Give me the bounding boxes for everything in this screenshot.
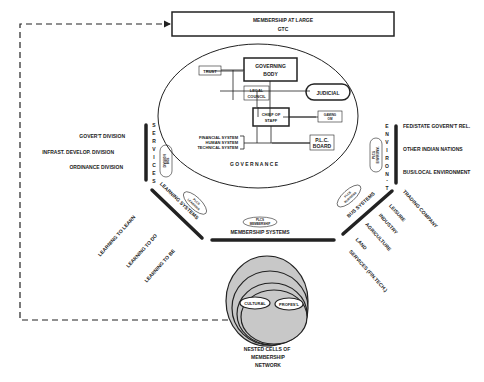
svg-text:BODY: BODY xyxy=(263,71,278,77)
svg-text:NESTED CELLS OF: NESTED CELLS OF xyxy=(244,346,290,352)
svg-text:INFRAST. DEVELOP. DIVISION: INFRAST. DEVELOP. DIVISION xyxy=(42,149,114,155)
svg-text:V: V xyxy=(152,146,156,152)
svg-text:-: - xyxy=(386,177,388,183)
services-vertical-label: S E R V I C E S xyxy=(152,122,156,184)
svg-text:E: E xyxy=(152,170,156,176)
svg-text:OTHER INDIAN NATIONS: OTHER INDIAN NATIONS xyxy=(403,146,463,152)
svg-text:CULTURAL: CULTURAL xyxy=(244,301,266,306)
trust-box: TRUST xyxy=(199,66,221,75)
gaming-box: GAMING OM xyxy=(318,111,342,122)
governance-systems-list: FINANCIAL SYSTEM HUMAN SYSTEM TECHNICAL … xyxy=(197,135,238,150)
judicial-box: JUDICIAL xyxy=(306,84,350,100)
svg-text:ORDINANCE DIVISION: ORDINANCE DIVISION xyxy=(69,164,123,170)
svg-text:R: R xyxy=(152,138,156,144)
svg-text:V: V xyxy=(385,139,389,145)
svg-text:S: S xyxy=(152,122,156,128)
svg-text:N: N xyxy=(385,131,389,137)
svg-text:MEMBERSHIP: MEMBERSHIP xyxy=(250,222,270,226)
svg-text:R: R xyxy=(385,155,389,161)
svg-text:TRUST: TRUST xyxy=(203,69,217,74)
svg-text:S: S xyxy=(152,178,156,184)
environment-items: FED/STATE GOVERN'T REL. OTHER INDIAN NAT… xyxy=(403,123,471,175)
membership-at-large-subtitle: GTC xyxy=(278,26,289,32)
environment-ellipse: PLCS ENVIRONM. xyxy=(370,138,382,172)
svg-text:TECHNICAL SYSTEM: TECHNICAL SYSTEM xyxy=(197,145,238,150)
membership-ellipse: PLCS MEMBERSHIP xyxy=(243,217,277,227)
governance-label: G O V E R N A N C E xyxy=(230,161,279,167)
svg-text:CHIEF OF: CHIEF OF xyxy=(262,112,281,117)
svg-text:GOVER'T DIVISION: GOVER'T DIVISION xyxy=(79,133,125,139)
svg-text:LEARNING TO BE: LEARNING TO BE xyxy=(143,247,176,283)
svg-text:STAFF: STAFF xyxy=(265,118,278,123)
services-items: GOVER'T DIVISION INFRAST. DEVELOP. DIVIS… xyxy=(42,133,125,170)
svg-text:LAND: LAND xyxy=(355,236,369,251)
svg-text:E: E xyxy=(152,130,156,136)
svg-text:I: I xyxy=(153,154,155,160)
svg-text:GOVERNING: GOVERNING xyxy=(255,63,286,69)
membership-at-large-box: MEMBERSHIP AT LARGE GTC xyxy=(172,12,394,36)
svg-text:NETWORK: NETWORK xyxy=(255,362,281,368)
svg-text:I: I xyxy=(386,147,388,153)
svg-text:BUS/LOCAL ENVIRONMENT: BUS/LOCAL ENVIRONMENT xyxy=(403,169,470,175)
svg-text:BOS: BOS xyxy=(166,158,170,165)
svg-text:JUDICIAL: JUDICIAL xyxy=(316,90,339,96)
svg-text:LEGAL: LEGAL xyxy=(250,88,264,93)
svg-text:O: O xyxy=(385,163,389,169)
svg-text:PROFES'L: PROFES'L xyxy=(279,302,299,307)
cultural-cell: CULTURAL xyxy=(240,297,270,309)
svg-text:LEISURE: LEISURE xyxy=(388,203,407,224)
svg-text:SERVICES (FIN.TECH.): SERVICES (FIN.TECH.) xyxy=(348,248,389,293)
legal-council-box: LEGAL COUNCIL xyxy=(244,86,269,100)
svg-text:TRADING COMPANY: TRADING COMPANY xyxy=(402,188,440,229)
nested-cells-caption: NESTED CELLS OF MEMBERSHIP NETWORK xyxy=(244,346,290,368)
svg-text:T: T xyxy=(385,185,388,191)
professional-cell: PROFES'L xyxy=(275,298,303,310)
svg-text:BOARD: BOARD xyxy=(313,143,332,149)
svg-text:OM: OM xyxy=(328,117,333,121)
svg-text:LEARNING TO DO: LEARNING TO DO xyxy=(125,233,158,269)
svg-text:COUNCIL: COUNCIL xyxy=(247,94,266,99)
membership-systems-label: MEMBERSHIP SYSTEMS xyxy=(230,229,290,235)
svg-text:LEARNING TO LEARN: LEARNING TO LEARN xyxy=(97,214,137,258)
svg-text:MEMBERSHIP: MEMBERSHIP xyxy=(251,354,286,360)
plc-board-box: P.L.C. BOARD xyxy=(310,135,334,150)
organization-diagram: MEMBERSHIP AT LARGE GTC G O V E R N A N … xyxy=(0,0,484,382)
membership-at-large-title: MEMBERSHIP AT LARGE xyxy=(253,17,314,23)
svg-text:E: E xyxy=(385,123,389,129)
environment-vertical-label: E N V I R O N - T xyxy=(385,123,389,191)
learning-items: LEARNING TO LEARN LEARNING TO DO LEARNIN… xyxy=(97,214,177,284)
svg-text:C: C xyxy=(152,162,156,168)
svg-text:FED/STATE GOVERN'T REL.: FED/STATE GOVERN'T REL. xyxy=(403,123,471,129)
svg-text:ENVIRONM.: ENVIRONM. xyxy=(376,146,380,163)
governing-body-box: GOVERNING BODY xyxy=(244,58,297,81)
